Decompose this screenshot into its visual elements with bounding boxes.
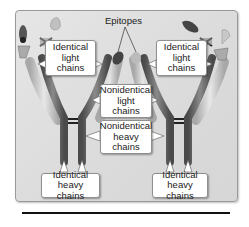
epitope-pointer-lines (118, 27, 136, 52)
label-line: chains (112, 142, 139, 153)
nonidentical-light-chains-label: Nonidentical light chains (100, 84, 152, 118)
label-line: chains (168, 63, 195, 74)
nonidentical-heavy-chains-label: Nonidentical heavy chains (100, 120, 152, 154)
label-line: heavy chains (155, 180, 205, 201)
epitopes-label: Epitopes (105, 15, 142, 26)
divider-rule (22, 212, 230, 214)
label-line: heavy chains (44, 180, 97, 201)
identical-light-chains-right-label: Identical light chains (156, 40, 207, 76)
label-line: chains (112, 106, 139, 117)
identical-heavy-chains-left-label: Identical heavy chains (41, 173, 100, 198)
identical-heavy-chains-right-label: Identical heavy chains (152, 173, 208, 198)
label-line: chains (57, 63, 84, 74)
identical-light-chains-left-label: Identical light chains (45, 40, 96, 76)
